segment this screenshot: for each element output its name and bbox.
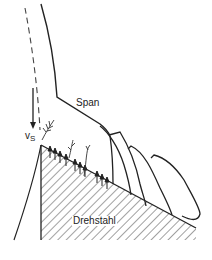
chip-outline <box>41 4 110 136</box>
chip-label: Span <box>76 98 99 108</box>
workpiece-contour <box>14 145 41 240</box>
velocity-label: vS <box>24 131 36 143</box>
tool-label: Drehstahl <box>72 216 117 226</box>
velocity-arrow <box>30 88 36 129</box>
